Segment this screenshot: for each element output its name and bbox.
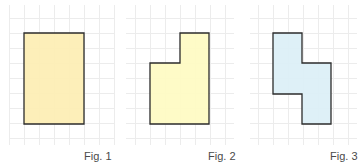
figure-label-1: Fig. 1 [84, 150, 112, 162]
figure-1 [9, 5, 115, 145]
shape-2 [150, 33, 209, 124]
shape-3 [273, 33, 331, 124]
figure-label-2: Fig. 2 [208, 150, 236, 162]
figure-2 [126, 5, 234, 145]
figure-3 [250, 5, 357, 145]
shape-1 [24, 33, 84, 124]
figure-label-3: Fig. 3 [330, 150, 358, 162]
